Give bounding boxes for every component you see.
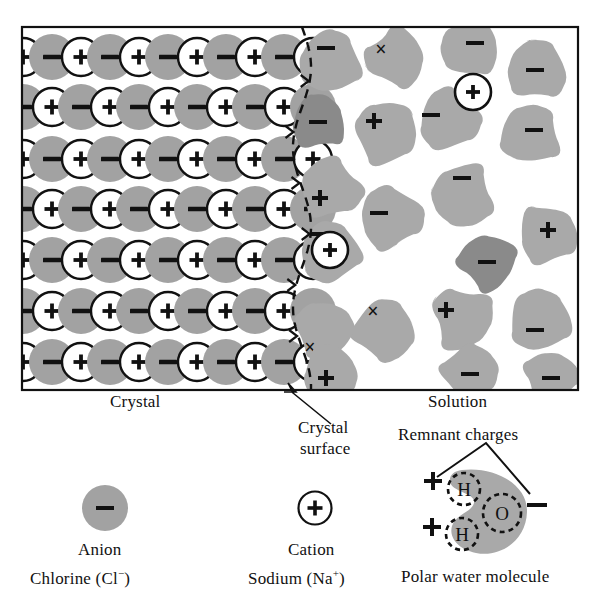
- water-minus-mark: [370, 211, 388, 215]
- water-minus-mark: [422, 113, 440, 117]
- water-minus-mark: [453, 176, 471, 180]
- water-molecule: [355, 103, 416, 166]
- water-minus-mark: [526, 68, 544, 72]
- water-plus-mark: [318, 190, 322, 206]
- legend-anion-name: Anion: [78, 540, 122, 560]
- solvated-cation: [455, 74, 491, 110]
- water-molecule: [430, 289, 493, 351]
- anion-species-tail: ): [124, 569, 130, 588]
- surface-tick: [289, 330, 297, 342]
- crystal-anion: [0, 136, 17, 182]
- water-molecule: [522, 207, 578, 266]
- water-molecule: [523, 353, 581, 408]
- dissolution-diagram: ××× HHO Crystal Crystal surface Solution…: [0, 0, 599, 602]
- svg-text:H: H: [457, 479, 471, 500]
- water-cross-mark: ×: [375, 38, 386, 60]
- anion-species-text: Chlorine (Cl: [30, 569, 118, 588]
- water-molecule: ×: [364, 23, 424, 89]
- water-cross-mark: ×: [367, 300, 378, 322]
- water-minus-mark: [525, 128, 543, 132]
- water-molecule: [508, 39, 567, 97]
- water-partial-negative: [527, 503, 547, 507]
- label-crystal-surface-1: Crystal: [298, 418, 349, 438]
- surface-tick: [287, 279, 295, 291]
- water-minus-mark: [309, 120, 327, 124]
- surface-tick: [286, 126, 294, 138]
- solvated-cation: [312, 232, 348, 268]
- crystal-cation: [0, 190, 13, 228]
- water-minus-mark: [317, 46, 335, 50]
- legend-water-name: Polar water molecule: [401, 567, 549, 587]
- water-molecule: ×: [349, 299, 415, 363]
- water-minus-mark: [526, 328, 544, 332]
- water-minus-mark: [542, 376, 560, 380]
- diagram-canvas: ××× HHO: [0, 0, 599, 602]
- water-molecule: [430, 163, 494, 226]
- cation-species-text: Sodium (Na: [248, 569, 333, 588]
- water-molecule: [500, 105, 561, 161]
- legend-cation-name: Cation: [288, 540, 335, 560]
- surface-tick: [292, 177, 300, 189]
- legend-cation-species: Sodium (Na+): [248, 567, 345, 589]
- crystal-anion: [0, 339, 17, 385]
- solvated-anion: [455, 235, 517, 293]
- water-molecule-figure: HHO: [423, 469, 547, 553]
- svg-text:H: H: [455, 524, 469, 545]
- water-plus-mark: [372, 113, 376, 129]
- legend-anion-species: Chlorine (Cl−): [30, 567, 130, 589]
- water-plus-mark: [546, 222, 550, 238]
- label-crystal-surface-2: surface: [300, 439, 350, 459]
- water-minus-mark: [466, 41, 484, 45]
- water-plus-mark: [444, 302, 448, 318]
- water-partial-positive: [423, 518, 441, 536]
- label-remnant-charges: Remnant charges: [398, 425, 518, 445]
- water-molecule: [512, 289, 573, 350]
- crystal-cation: [0, 88, 13, 126]
- label-solution: Solution: [428, 392, 487, 412]
- solution-region: ×××: [293, 18, 581, 408]
- water-minus-mark: [478, 260, 496, 264]
- svg-text:O: O: [495, 503, 509, 524]
- legend-anion-symbol: [82, 485, 128, 531]
- crystal-anion: [0, 34, 17, 80]
- cation-species-tail: ): [339, 569, 345, 588]
- crystal-lattice-region: [0, 34, 336, 385]
- label-crystal: Crystal: [110, 392, 161, 412]
- legend-symbols: [82, 485, 332, 531]
- water-plus-mark: [324, 370, 328, 386]
- water-minus-mark: [461, 372, 479, 376]
- legend-cation-symbol: [299, 492, 332, 525]
- crystal-anion: [0, 237, 17, 283]
- crystal-cation: [0, 292, 13, 330]
- water-molecule: [362, 185, 425, 252]
